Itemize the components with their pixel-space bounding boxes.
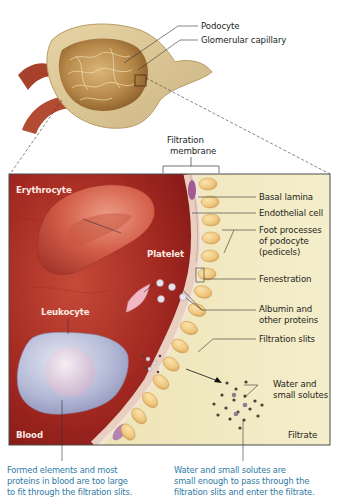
label-filtration-membrane-line2: membrane [170, 146, 216, 157]
label-glomerular-capillary: Glomerular capillary [201, 35, 286, 46]
label-platelet: Platelet [147, 249, 184, 260]
label-erythrocyte: Erythrocyte [16, 185, 72, 196]
filtration-membrane-bracket [163, 157, 219, 173]
label-water-line2: small solutes [273, 390, 328, 401]
label-foot-processes-line3: (pedicels) [259, 247, 300, 258]
label-fenestration: Fenestration [259, 274, 311, 285]
label-filtrate: Filtrate [288, 430, 317, 441]
label-leukocyte: Leukocyte [41, 307, 90, 318]
label-endothelial-cell: Endothelial cell [259, 208, 323, 219]
label-albumin-line1: Albumin and [259, 304, 312, 315]
label-basal-lamina: Basal lamina [259, 192, 313, 203]
caption-right-line3: filtration slits and enter the filtrate. [174, 487, 315, 498]
label-foot-processes-line1: Foot processes [259, 225, 322, 236]
caption-left-line3: to fit through the filtration slits. [7, 487, 132, 498]
caption-right-line1: Water and small solutes are [174, 465, 286, 476]
label-albumin-line2: other proteins [259, 315, 318, 326]
label-water-line1: Water and [273, 379, 316, 390]
caption-right-line2: small enough to pass through the [174, 476, 309, 487]
label-blood: Blood [16, 430, 43, 441]
label-foot-processes-line2: of podocyte [259, 236, 309, 247]
label-podocyte: Podocyte [201, 21, 240, 32]
label-filtration-membrane-line1: Filtration [167, 135, 204, 146]
caption-left-line2: proteins in blood are too large [7, 476, 128, 487]
label-filtration-slits: Filtration slits [259, 334, 315, 345]
caption-left-line1: Formed elements and most [7, 465, 117, 476]
